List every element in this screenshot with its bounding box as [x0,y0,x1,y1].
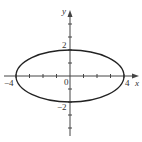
y-neg-label: −2 [57,102,67,112]
x-axis-label: x [134,78,139,88]
x-neg-label: −4 [4,78,14,88]
x-pos-label: 4 [125,78,130,88]
y-axis-label: y [61,6,66,16]
y-pos-label: 2 [62,40,67,50]
origin-label: 0 [64,77,69,87]
y-axis-arrow-icon [68,10,73,17]
ellipse-chart: y x 0 −4 4 2 −2 [0,0,142,142]
